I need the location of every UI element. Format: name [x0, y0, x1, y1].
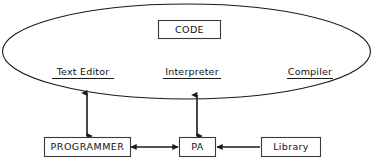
programmer-box-label: PROGRAMMER	[51, 141, 125, 152]
tool-label-text-editor[interactable]: Text Editor	[56, 66, 110, 77]
tool-label-compiler[interactable]: Compiler	[288, 66, 332, 77]
pa-box-label: PA	[191, 141, 204, 152]
tool-label-interpreter[interactable]: Interpreter	[165, 66, 219, 77]
library-box-label: Library	[273, 141, 309, 152]
diagram-svg: CODE Text Editor Interpreter Compiler PR…	[0, 0, 378, 163]
environment-ellipse	[3, 4, 371, 99]
diagram-canvas: CODE Text Editor Interpreter Compiler PR…	[0, 0, 378, 163]
code-box-label: CODE	[175, 24, 204, 35]
